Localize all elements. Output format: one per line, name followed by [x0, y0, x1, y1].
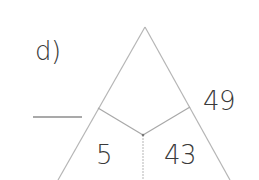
number-bottom-left-cell: 5: [96, 142, 112, 168]
number-right-outside: 49: [203, 88, 235, 114]
center-point: [142, 134, 145, 137]
number-triangle-diagram: d) 49 5 43: [0, 0, 259, 180]
number-bottom-right-cell: 43: [164, 142, 196, 168]
divider-left: [98, 108, 143, 135]
part-label: d): [35, 38, 61, 64]
divider-right: [143, 107, 190, 135]
